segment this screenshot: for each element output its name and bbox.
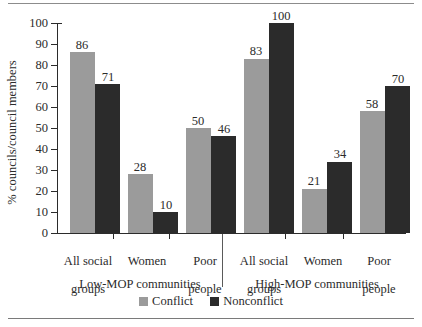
x-axis-line: [57, 233, 406, 234]
bar-value-nonconflict-high-poor-people: 70: [378, 73, 418, 85]
section-label-low-mop: Low-MOP communities: [58, 277, 222, 292]
bar-value-conflict-high-women: 21: [294, 175, 334, 187]
y-tick-label-90: 90: [18, 38, 48, 50]
y-tick-0: [51, 233, 57, 234]
x-tick-0: [113, 234, 114, 239]
bar-conflict-high-poor-people: [360, 111, 385, 233]
bar-nonconflict-high-women: [327, 162, 352, 233]
y-tick-label-20: 20: [18, 185, 48, 197]
bar-nonconflict-low-poor-people: [211, 136, 236, 233]
top-divider-rule: [8, 3, 414, 4]
legend-swatch-nonconflict-icon: [210, 297, 219, 306]
y-tick-label-50: 50: [18, 122, 48, 134]
bar-value-nonconflict-high-women: 34: [320, 148, 360, 160]
section-label-high-mop: High-MOP communities: [228, 277, 406, 292]
bar-value-conflict-high-all-social-groups: 83: [236, 45, 276, 57]
y-tick-label-100: 100: [18, 17, 48, 29]
bar-value-nonconflict-low-women: 10: [146, 199, 186, 211]
bar-nonconflict-low-all-social-groups: [95, 84, 120, 233]
y-tick-label-40: 40: [18, 143, 48, 155]
bar-chart-figure: % councils/council members 100 90 80 70 …: [0, 0, 422, 327]
bar-value-conflict-high-poor-people: 58: [352, 98, 392, 110]
x-tick-3: [343, 234, 344, 239]
bar-value-nonconflict-low-poor-people: 46: [204, 123, 244, 135]
bar-value-conflict-low-women: 28: [120, 161, 160, 173]
y-tick-label-30: 30: [18, 164, 48, 176]
y-tick-label-0: 0: [18, 227, 48, 239]
x-category-label-line1: Poor: [346, 254, 412, 268]
plot-area: 86 71 28 10 50 46 83 100 21 34 58 70: [57, 23, 405, 233]
x-tick-2: [285, 234, 286, 239]
bar-conflict-low-poor-people: [186, 128, 211, 233]
bar-conflict-high-women: [302, 189, 327, 233]
y-tick-label-60: 60: [18, 101, 48, 113]
bar-nonconflict-low-women: [153, 212, 178, 233]
legend-label-conflict: Conflict: [152, 294, 193, 308]
y-tick-label-10: 10: [18, 206, 48, 218]
legend-label-nonconflict: Nonconflict: [223, 294, 283, 308]
x-tick-1: [169, 234, 170, 239]
legend-item-nonconflict: Nonconflict: [210, 294, 283, 309]
bar-value-conflict-low-all-social-groups: 86: [62, 39, 102, 51]
y-tick-label-70: 70: [18, 80, 48, 92]
bar-conflict-high-all-social-groups: [244, 59, 269, 233]
legend-item-conflict: Conflict: [139, 294, 193, 309]
y-tick-label-80: 80: [18, 59, 48, 71]
bar-value-nonconflict-high-all-social-groups: 100: [260, 10, 302, 22]
bottom-divider-rule: [8, 318, 414, 319]
legend-swatch-conflict-icon: [139, 297, 148, 306]
bar-value-nonconflict-low-all-social-groups: 71: [88, 71, 128, 83]
chart-legend: Conflict Nonconflict: [0, 294, 422, 309]
